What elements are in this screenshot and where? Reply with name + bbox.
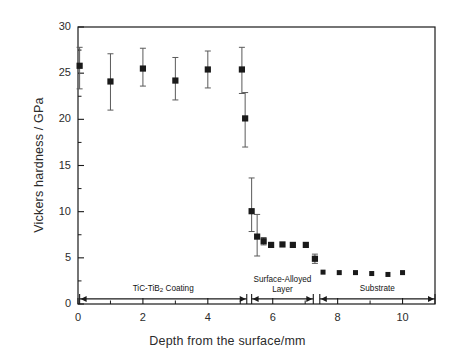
y-tick-label: 20 [45,112,71,124]
data-point-marker [290,242,296,248]
data-point-marker [353,270,358,275]
data-point-marker [239,66,245,72]
y-tick-label: 25 [45,66,71,78]
y-tick-label: 10 [45,205,71,217]
x-tick-label: 0 [65,311,91,323]
x-axis-title: Depth from the surface/mm [0,334,455,348]
chart-figure: 051015202530 0246810 TiC-TiB2 CoatingSur… [0,0,455,363]
y-tick-label: 5 [45,251,71,263]
data-point-marker [312,256,318,262]
data-point-marker [77,63,83,69]
data-point-marker [261,238,267,244]
data-point-marker [140,65,146,71]
y-tick-label: 30 [45,20,71,32]
y-tick-label: 15 [45,159,71,171]
region-arrow-coating [80,294,247,304]
data-point-marker [369,271,374,276]
data-point-marker [321,270,326,275]
region-label-substrate: Substrate [307,284,447,293]
y-tick-label: 0 [45,297,71,309]
data-point-marker [303,242,309,248]
data-point-marker [242,115,248,121]
region-arrow-surface-alloyed-layer [252,294,314,304]
region-span-arrows [80,294,435,304]
x-tick-label: 10 [390,311,416,323]
data-point-marker [172,77,178,83]
error-bar [249,178,255,232]
data-point-marker [205,66,211,72]
region-arrow-substrate [320,294,435,304]
x-tick-label: 6 [260,311,286,323]
x-tick-label: 2 [130,311,156,323]
data-point-marker [249,208,255,214]
data-point-marker [400,270,405,275]
data-point-marker [385,272,390,277]
data-markers [77,63,406,277]
data-point-marker [268,242,274,248]
plot-frame [78,27,435,304]
x-tick-label: 4 [195,311,221,323]
data-point-marker [107,78,113,84]
data-point-marker [279,241,285,247]
y-axis-title: Vickers hardness / GPa [32,60,46,270]
x-tick-label: 8 [325,311,351,323]
data-point-marker [254,233,260,239]
